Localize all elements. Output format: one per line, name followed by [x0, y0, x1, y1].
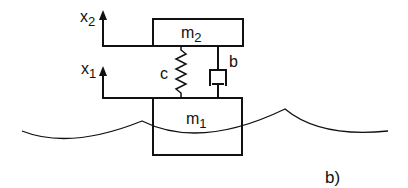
spring-label: c — [160, 65, 168, 82]
x2-reference-line — [103, 16, 153, 46]
spring — [176, 46, 186, 98]
x1-label: x1 — [81, 60, 96, 81]
m1-label: m1 — [186, 110, 207, 131]
x1-arrow-icon — [99, 66, 107, 76]
x2-label: x2 — [80, 8, 95, 29]
x2-arrow-icon — [99, 10, 107, 20]
two-mass-system-diagram: x2 x1 m2 m1 c b b) — [0, 0, 408, 188]
damper — [210, 46, 226, 98]
damper-label: b — [229, 53, 238, 70]
panel-label: b) — [325, 168, 340, 187]
